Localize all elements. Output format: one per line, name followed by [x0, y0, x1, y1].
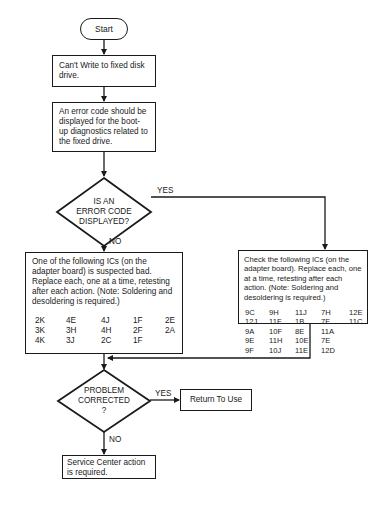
ic-column: 4J 4H 2C — [101, 316, 133, 346]
decision-line: CORRECTED — [64, 396, 144, 406]
ic-column: 9C 12J 9A 9E 9F — [245, 308, 269, 355]
ic-code: 9C — [245, 308, 269, 317]
ic-code: 10J — [269, 346, 295, 355]
ic-code: 8E — [295, 327, 321, 336]
ic-code: 11C — [349, 317, 367, 326]
error-code-expected-node: An error code should be displayed for th… — [52, 102, 156, 152]
edge-label-error-no: NO — [109, 237, 121, 247]
ic-code: 4H — [101, 326, 133, 336]
ic-code: 4K — [35, 336, 66, 346]
ic-column: 4E 3H 3J — [66, 316, 101, 346]
decision-error-code-label: IS AN ERROR CODE DISPLAYED? — [64, 197, 144, 227]
ic-code: 12D — [321, 346, 349, 355]
ic-code: 2C — [101, 336, 133, 346]
ic-column: 12E 11C — [349, 308, 367, 355]
decision-line: PROBLEM — [64, 386, 144, 396]
ic-code: 1B — [295, 317, 321, 326]
ic-code: 2A — [165, 326, 187, 336]
service-center-label: Service Center action is required. — [67, 458, 145, 477]
ic-code: 4J — [101, 316, 133, 326]
ic-code: 11H — [269, 336, 295, 345]
right-ics-grid: 9C 12J 9A 9E 9F 9H 11F 10F 11H 10J 11J 1… — [245, 308, 362, 355]
ic-code: 3H — [66, 326, 101, 336]
start-label: Start — [95, 24, 113, 34]
edge-label-corrected-yes: YES — [155, 389, 171, 399]
ic-code: 2F — [133, 326, 165, 336]
edge-label-corrected-no: NO — [109, 435, 121, 445]
cant-write-node: Can't Write to fixed disk drive. — [52, 55, 156, 87]
edge-label-error-yes: YES — [157, 186, 173, 196]
right-ics-node: Check the following ICs (on the adapter … — [238, 250, 368, 324]
ic-code: 11A — [321, 327, 349, 336]
ic-code: 11F — [269, 317, 295, 326]
ic-column: 2E 2A — [165, 316, 187, 346]
ic-code: 3J — [66, 336, 101, 346]
return-to-use-node: Return To Use — [180, 389, 252, 411]
ic-column: 2K 3K 4K — [35, 316, 66, 346]
ic-code: 2E — [165, 316, 187, 326]
ic-code: 12J — [245, 317, 269, 326]
ic-code: 9A — [245, 327, 269, 336]
ic-code: 11E — [295, 346, 321, 355]
left-ics-grid: 2K 3K 4K 4E 3H 3J 4J 4H 2C 1F 2F 1F 2E 2… — [35, 316, 176, 346]
ic-code: 10F — [269, 327, 295, 336]
decision-corrected-label: PROBLEM CORRECTED ? — [64, 386, 144, 416]
ic-code: 10E — [295, 336, 321, 345]
decision-line: DISPLAYED? — [64, 217, 144, 227]
ic-code: 11J — [295, 308, 321, 317]
ic-code: 7H — [321, 308, 349, 317]
ic-code: 1F — [133, 336, 165, 346]
left-ics-text: One of the following ICs (on the adapter… — [32, 257, 176, 307]
ic-code: 9E — [245, 336, 269, 345]
decision-line: IS AN — [64, 197, 144, 207]
ic-code: 7F — [321, 317, 349, 326]
start-node: Start — [80, 18, 128, 40]
ic-column: 11J 1B 8E 10E 11E — [295, 308, 321, 355]
ic-code: 4E — [66, 316, 101, 326]
ic-code: 1F — [133, 316, 165, 326]
ic-code: 9F — [245, 346, 269, 355]
service-center-node: Service Center action is required. — [62, 455, 156, 479]
ic-column: 1F 2F 1F — [133, 316, 165, 346]
ic-code — [165, 336, 187, 346]
ic-code: 7E — [321, 336, 349, 345]
left-ics-node: One of the following ICs (on the adapter… — [25, 252, 183, 354]
ic-code: 12E — [349, 308, 367, 317]
right-ics-text: Check the following ICs (on the adapter … — [244, 255, 362, 302]
ic-column: 9H 11F 10F 11H 10J — [269, 308, 295, 355]
ic-code: 9H — [269, 308, 295, 317]
decision-line: ERROR CODE — [64, 207, 144, 217]
return-to-use-label: Return To Use — [190, 395, 242, 404]
error-code-expected-label: An error code should be displayed for th… — [59, 107, 148, 146]
decision-line: ? — [64, 406, 144, 416]
ic-code: 3K — [35, 326, 66, 336]
ic-code: 2K — [35, 316, 66, 326]
ic-column: 7H 7F 11A 7E 12D — [321, 308, 349, 355]
cant-write-label: Can't Write to fixed disk drive. — [59, 61, 145, 80]
